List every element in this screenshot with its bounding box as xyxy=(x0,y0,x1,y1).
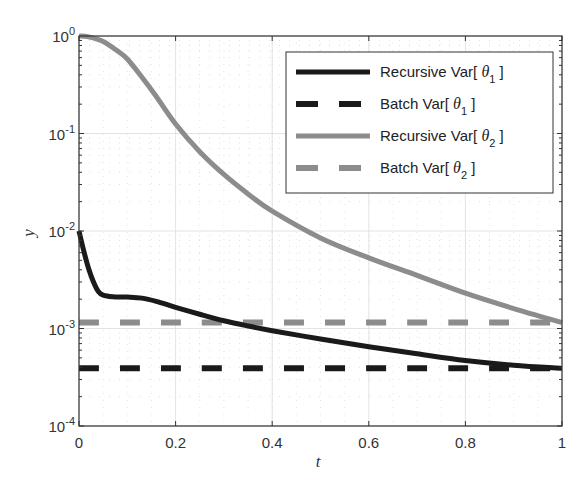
x-axis-tick-labels: 00.20.40.60.81 xyxy=(75,434,566,451)
x-tick-label: 0.2 xyxy=(165,434,186,451)
legend: Recursive Var[ θ1 ]Batch Var[ θ1 ]Recurs… xyxy=(286,52,553,193)
y-tick-label: 100 xyxy=(52,25,75,45)
y-tick-label: 10-4 xyxy=(49,415,75,435)
x-tick-label: 0.4 xyxy=(262,434,283,451)
x-tick-label: 0 xyxy=(75,434,83,451)
x-tick-label: 0.6 xyxy=(358,434,379,451)
y-tick-label: 10-1 xyxy=(49,123,75,143)
x-tick-label: 0.8 xyxy=(455,434,476,451)
x-axis-label: t xyxy=(316,452,322,471)
y-axis-label: y xyxy=(19,229,38,239)
y-tick-label: 10-3 xyxy=(49,318,75,338)
x-tick-label: 1 xyxy=(558,434,566,451)
y-axis-tick-labels: 10010-110-210-310-4 xyxy=(49,25,75,435)
chart: 00.20.40.60.81 10010-110-210-310-4 t y R… xyxy=(0,0,585,496)
y-tick-label: 10-2 xyxy=(49,220,75,240)
